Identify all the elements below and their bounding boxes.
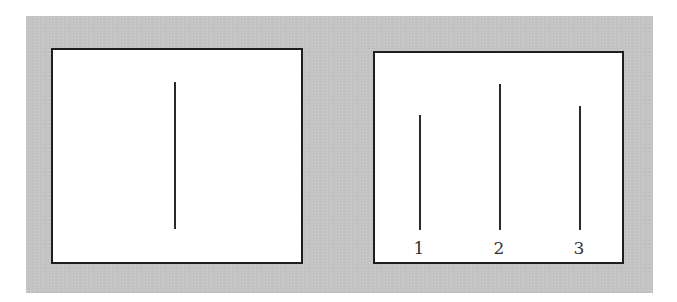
standard-line xyxy=(174,82,176,229)
comparison-label-2: 2 xyxy=(489,238,509,258)
comparison-line-1 xyxy=(419,115,421,230)
standard-line-card xyxy=(51,48,303,264)
comparison-line-3 xyxy=(579,106,581,230)
comparison-label-3: 3 xyxy=(569,238,589,258)
comparison-label-1: 1 xyxy=(409,238,429,258)
comparison-line-2 xyxy=(499,84,501,230)
